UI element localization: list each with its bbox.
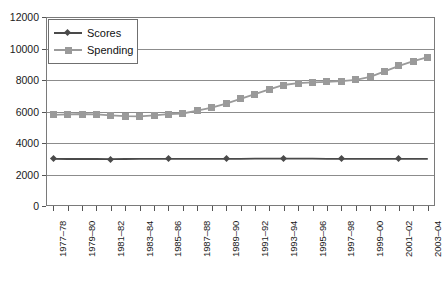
- x-tick-mark: [183, 206, 184, 211]
- x-tick-mark: [255, 206, 256, 211]
- x-tick-mark: [298, 206, 299, 211]
- y-tick-mark: [42, 112, 46, 113]
- legend-swatch-scores: [54, 27, 82, 39]
- x-tick-mark: [125, 206, 126, 211]
- x-tick-mark: [341, 206, 342, 211]
- x-tick-mark: [111, 206, 112, 211]
- y-tick-mark: [42, 80, 46, 81]
- gridline: [47, 175, 434, 176]
- gridline: [47, 112, 434, 113]
- legend-item-scores: Scores: [54, 24, 132, 41]
- y-tick-label: 8000: [0, 75, 39, 85]
- x-tick-label: 1987–88: [201, 221, 212, 257]
- y-tick-mark: [42, 49, 46, 50]
- x-tick-mark: [68, 206, 69, 211]
- x-tick-mark: [212, 206, 213, 211]
- x-tick-mark: [197, 206, 198, 211]
- legend-label-scores: Scores: [87, 27, 121, 39]
- y-tick-label: 12000: [0, 12, 39, 22]
- legend-swatch-spending: [54, 44, 82, 56]
- y-tick-label: 2000: [0, 170, 39, 180]
- x-tick-mark: [327, 206, 328, 211]
- x-tick-label: 2003–04: [432, 221, 443, 257]
- y-tick-label: 4000: [0, 138, 39, 148]
- gridline: [47, 80, 434, 81]
- x-tick-label: 1989–90: [230, 221, 241, 257]
- x-tick-label: 1993–94: [288, 221, 299, 257]
- y-tick-label: 10000: [0, 44, 39, 54]
- x-tick-label: 1981–82: [115, 221, 126, 257]
- x-tick-label: 2001–02: [403, 221, 414, 257]
- x-tick-mark: [284, 206, 285, 211]
- y-tick-label: 0: [0, 201, 39, 211]
- diamond-icon: [64, 28, 71, 35]
- x-tick-label: 1983–84: [144, 221, 155, 257]
- x-tick-mark: [269, 206, 270, 211]
- gridline: [47, 143, 434, 144]
- x-tick-label: 1999–00: [374, 221, 385, 257]
- y-tick-mark: [42, 175, 46, 176]
- x-tick-mark: [356, 206, 357, 211]
- square-icon: [65, 47, 72, 54]
- x-tick-label: 1995–96: [317, 221, 328, 257]
- x-tick-label: 1979–80: [86, 221, 97, 257]
- x-tick-mark: [226, 206, 227, 211]
- legend-label-spending: Spending: [87, 44, 134, 56]
- x-tick-mark: [413, 206, 414, 211]
- chart-legend: Scores Spending: [48, 19, 138, 64]
- x-tick-mark: [96, 206, 97, 211]
- x-tick-label: 1985–86: [172, 221, 183, 257]
- x-tick-label: 1997–98: [345, 221, 356, 257]
- x-tick-mark: [385, 206, 386, 211]
- x-tick-mark: [370, 206, 371, 211]
- x-tick-mark: [428, 206, 429, 211]
- y-tick-mark: [42, 143, 46, 144]
- x-tick-mark: [82, 206, 83, 211]
- legend-item-spending: Spending: [54, 41, 132, 58]
- x-tick-mark: [53, 206, 54, 211]
- x-tick-label: 1977–78: [57, 221, 68, 257]
- x-tick-mark: [313, 206, 314, 211]
- x-tick-label: 1991–92: [259, 221, 270, 257]
- x-tick-mark: [399, 206, 400, 211]
- y-tick-mark: [42, 206, 46, 207]
- x-tick-mark: [241, 206, 242, 211]
- x-tick-mark: [168, 206, 169, 211]
- x-tick-mark: [140, 206, 141, 211]
- y-tick-label: 6000: [0, 107, 39, 117]
- y-tick-mark: [42, 17, 46, 18]
- x-tick-mark: [154, 206, 155, 211]
